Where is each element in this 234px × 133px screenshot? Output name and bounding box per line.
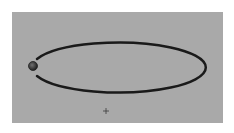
elliptical-track: [37, 42, 206, 92]
crosshair-icon: [103, 108, 109, 114]
ball-icon[interactable]: [29, 62, 38, 71]
orbit-diagram: [0, 0, 234, 133]
